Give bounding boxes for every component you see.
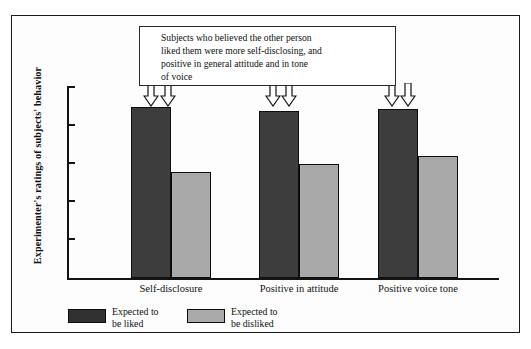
bar-positive-voice-tone-liked: [378, 109, 418, 278]
bar-positive-attitude-liked: [259, 111, 299, 278]
y-tick-5: [67, 86, 75, 88]
chart-figure: 5 4 3 2 1 Experimenter's ratings of subj…: [0, 0, 531, 349]
y-tick-4: [67, 124, 75, 126]
legend-label-disliked: Expected to be disliked: [231, 306, 331, 330]
legend-swatch-disliked: [187, 309, 225, 323]
category-label-self-disclosure: Self-disclosure: [111, 283, 231, 294]
legend-swatch-liked: [68, 309, 106, 323]
down-arrow-icon: [400, 83, 416, 107]
y-axis-title: Experimenter's ratings of subjects' beha…: [32, 66, 43, 266]
category-label-positive-attitude: Positive in attitude: [239, 283, 359, 294]
category-label-positive-voice-tone: Positive voice tone: [358, 283, 478, 294]
bar-self-disclosure-disliked: [171, 172, 211, 278]
plot-area: 5 4 3 2 1 Experimenter's ratings of subj…: [0, 0, 531, 349]
y-axis-line: [67, 86, 69, 279]
down-arrow-icon: [384, 83, 400, 107]
down-arrow-icon: [281, 83, 297, 107]
bar-positive-voice-tone-disliked: [418, 156, 458, 278]
y-tick-1: [67, 238, 75, 240]
bar-self-disclosure-liked: [131, 107, 171, 278]
x-axis-line: [67, 278, 499, 280]
annotation-text: Subjects who believed the other person l…: [161, 32, 387, 83]
bar-positive-attitude-disliked: [299, 164, 339, 278]
annotation-callout: Subjects who believed the other person l…: [139, 26, 396, 86]
down-arrow-icon: [265, 83, 281, 107]
y-tick-2: [67, 200, 75, 202]
y-tick-3: [67, 162, 75, 164]
down-arrow-icon: [160, 83, 176, 107]
down-arrow-icon: [143, 83, 159, 107]
